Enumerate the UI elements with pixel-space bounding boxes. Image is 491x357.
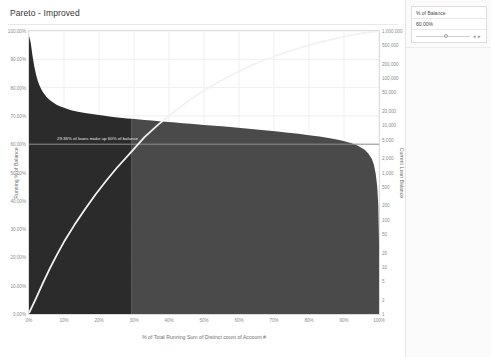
parameter-slider-row[interactable]: ◂ ▸ [412, 30, 486, 42]
x-axis-tick: 50% [199, 318, 208, 323]
x-axis-title: % of Total Running Sum of Distinct count… [28, 334, 380, 340]
y-axis-right-tick: 1 [382, 312, 385, 317]
worksheet-pane: Pareto - Improved Running % of Balance C… [0, 0, 405, 357]
parameter-title: % of Balance [412, 7, 486, 19]
x-axis-tick: 10% [59, 318, 68, 323]
y-axis-left-tick: 90.00% [2, 57, 26, 62]
y-axis-left-tick: 0.00% [2, 312, 26, 317]
plot-canvas: 29.36% of loans make up 60% of balance [29, 31, 379, 314]
x-axis-tick: 40% [164, 318, 173, 323]
y-axis-left-tick: 70.00% [2, 113, 26, 118]
y-axis-right-tick: 20 [382, 250, 387, 255]
tableau-dashboard: Pareto - Improved Running % of Balance C… [0, 0, 491, 357]
x-axis-tick: 30% [129, 318, 138, 323]
x-axis-tick: 20% [94, 318, 103, 323]
y-axis-right-tick: 2 [382, 297, 385, 302]
x-axis-tick: 80% [304, 318, 313, 323]
title-divider [8, 24, 398, 25]
pareto-chart-svg: 29.36% of loans make up 60% of balance [29, 31, 379, 314]
y-axis-right-tick: 500,000 [382, 43, 399, 48]
parameter-slider-track[interactable] [416, 36, 470, 37]
y-axis-left-tick: 60.00% [2, 142, 26, 147]
x-axis-tick: 0% [26, 318, 33, 323]
worksheet-title: Pareto - Improved [10, 8, 80, 18]
parameter-slider-thumb[interactable] [444, 34, 448, 38]
y-axis-right-tick: 5,000 [382, 137, 394, 142]
y-axis-right-tick: 500 [382, 184, 390, 189]
y-axis-right-tick: 100,000 [382, 76, 399, 81]
y-axis-left-tick: 20.00% [2, 255, 26, 260]
y-axis-right-tick: 10,000 [382, 123, 396, 128]
panel-divider [406, 47, 491, 48]
parameter-panel: % of Balance 60.00% ◂ ▸ [405, 0, 491, 357]
y-axis-right-tick: 5 [382, 279, 385, 284]
y-axis-right-tick: 1,000,000 [382, 29, 402, 34]
y-axis-left-tick: 100.00% [2, 29, 26, 34]
x-axis-ticks: 0%10%20%30%40%50%60%70%80%90%100% [28, 318, 380, 328]
y-axis-left-ticks: 100.00%90.00%80.00%70.00%60.00%50.00%40.… [0, 30, 26, 315]
x-axis-tick: 70% [269, 318, 278, 323]
parameter-card-balance: % of Balance 60.00% ◂ ▸ [411, 6, 487, 43]
x-axis-tick: 100% [373, 318, 385, 323]
parameter-increase-button[interactable]: ▸ [477, 34, 482, 39]
x-axis-tick: 60% [234, 318, 243, 323]
y-axis-left-tick: 30.00% [2, 227, 26, 232]
y-axis-right-tick: 50,000 [382, 90, 396, 95]
chart-annotation: 29.36% of loans make up 60% of balance [57, 136, 139, 141]
y-axis-right-tick: 100 [382, 217, 390, 222]
y-axis-right-tick: 20,000 [382, 109, 396, 114]
y-axis-left-tick: 50.00% [2, 170, 26, 175]
y-axis-left-tick: 80.00% [2, 85, 26, 90]
y-axis-left-tick: 40.00% [2, 198, 26, 203]
parameter-value[interactable]: 60.00% [412, 19, 486, 30]
plot-area[interactable]: 29.36% of loans make up 60% of balance [28, 30, 380, 315]
y-axis-right-tick: 50 [382, 231, 387, 236]
x-axis-tick: 90% [339, 318, 348, 323]
y-axis-left-tick: 10.00% [2, 283, 26, 288]
y-axis-right-tick: 200 [382, 203, 390, 208]
y-axis-right-tick: 10 [382, 264, 387, 269]
y-axis-right-tick: 2,000 [382, 156, 394, 161]
y-axis-right-tick: 1,000 [382, 170, 394, 175]
y-axis-right-tick: 200,000 [382, 61, 399, 66]
